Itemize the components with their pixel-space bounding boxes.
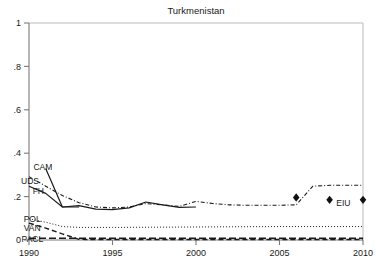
x-tick-label-1995: 1995 [102, 248, 122, 258]
chart-figure: Turkmenistan 0 .2 .4 .6 .8 1 1990 1995 2… [0, 0, 376, 272]
series-label-PACL: PACL [22, 234, 44, 244]
y-axis-ticks: 0 .2 .4 .6 .8 1 [13, 18, 29, 245]
chart-title: Turkmenistan [167, 5, 224, 16]
y-tick-label-1: 1 [16, 18, 21, 28]
y-tick-label-04: .4 [13, 148, 21, 158]
x-tick-label-2000: 2000 [186, 248, 206, 258]
y-tick-label-02: .2 [13, 192, 21, 202]
series-label-FH: FH [33, 186, 44, 196]
series-label-EIU: EIU [336, 198, 350, 208]
series-label-CAM: CAM [33, 162, 52, 172]
x-axis-ticks: 1990 1995 2000 2005 2010 [19, 240, 373, 258]
y-tick-label-0: 0 [16, 235, 21, 245]
series-label-VAN: VAN [24, 223, 41, 233]
series-label-UDS: UDS [21, 176, 39, 186]
x-tick-label-1990: 1990 [19, 248, 39, 258]
y-tick-label-06: .6 [13, 105, 21, 115]
x-tick-label-2010: 2010 [353, 248, 373, 258]
y-tick-label-08: .8 [13, 62, 21, 72]
x-tick-label-2005: 2005 [269, 248, 289, 258]
